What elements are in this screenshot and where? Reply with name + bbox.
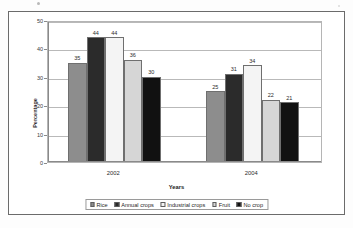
y-axis-tick-label: 10	[27, 132, 43, 138]
legend-item: Industrial crops	[161, 202, 205, 208]
y-axis-tick-mark	[44, 106, 47, 107]
x-axis-line	[48, 161, 321, 162]
legend-item: No crop	[237, 202, 263, 208]
bar	[225, 74, 244, 162]
y-axis-tick-label: 50	[27, 18, 43, 24]
scan-speck	[37, 2, 40, 5]
legend-item: Fruit	[212, 202, 230, 208]
y-axis-tick-mark	[44, 21, 47, 22]
bar	[280, 102, 299, 162]
bar-value-label: 30	[142, 69, 161, 75]
bar	[262, 100, 281, 162]
legend-item: Annual crops	[115, 202, 154, 208]
bar	[206, 91, 225, 162]
x-axis-group-label: 2004	[205, 170, 298, 176]
bar-value-label: 36	[124, 52, 143, 58]
x-axis-group-label: 2002	[67, 170, 160, 176]
y-axis-tick-mark	[44, 135, 47, 136]
bar	[243, 65, 262, 162]
legend-swatch-icon	[161, 202, 166, 207]
legend-label: No crop	[243, 202, 263, 208]
y-axis-tick-label: 30	[27, 75, 43, 81]
y-axis-tick-mark	[44, 163, 47, 164]
legend-item: Rice	[90, 202, 108, 208]
legend-label: Industrial crops	[167, 202, 205, 208]
legend-swatch-icon	[90, 202, 95, 207]
bar-value-label: 25	[206, 84, 225, 90]
scan-speck	[338, 5, 340, 7]
chart-outer-frame: Percentage 35444436302531342221 01020304…	[8, 11, 345, 215]
legend-swatch-icon	[212, 202, 217, 207]
legend-label: Fruit	[219, 202, 230, 208]
bar-value-label: 31	[225, 66, 244, 72]
y-axis-tick-mark	[44, 49, 47, 50]
bar-chart: Percentage 35444436302531342221 01020304…	[9, 12, 344, 214]
bar-value-label: 35	[68, 55, 87, 61]
bar	[142, 77, 161, 162]
legend-swatch-icon	[237, 202, 242, 207]
legend-swatch-icon	[115, 202, 120, 207]
chart-legend: RiceAnnual cropsIndustrial cropsFruitNo …	[85, 199, 268, 210]
bar-value-label: 21	[280, 95, 299, 101]
legend-label: Annual crops	[121, 202, 154, 208]
y-axis-tick-label: 0	[27, 160, 43, 166]
plot-area: 35444436302531342221	[47, 21, 322, 163]
bar-value-label: 44	[105, 30, 124, 36]
bar-value-label: 34	[243, 58, 262, 64]
y-axis-tick-mark	[44, 78, 47, 79]
legend-label: Rice	[96, 202, 107, 208]
bar-value-label: 44	[87, 30, 106, 36]
y-axis-tick-label: 20	[27, 103, 43, 109]
bar	[124, 60, 143, 162]
gridline	[48, 22, 321, 23]
x-axis-title: Years	[9, 184, 344, 190]
bar	[105, 37, 124, 162]
y-axis-line	[48, 22, 49, 162]
bar	[87, 37, 106, 162]
y-axis-tick-label: 40	[27, 46, 43, 52]
plot-area-wrapper: 35444436302531342221 01020304050 2002200…	[47, 21, 322, 163]
bar	[68, 63, 87, 162]
scanned-page-background: Percentage 35444436302531342221 01020304…	[0, 0, 353, 228]
bar-value-label: 22	[262, 92, 281, 98]
